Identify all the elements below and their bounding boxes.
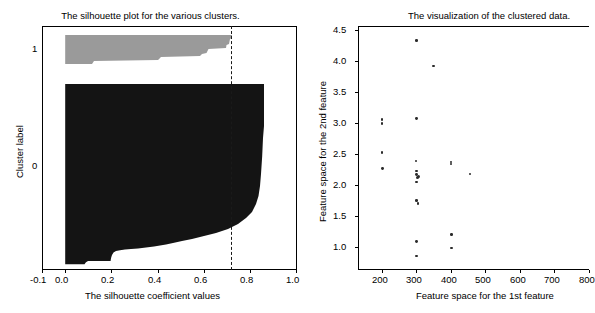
silhouette-cluster-0 <box>42 26 297 270</box>
ytick-mark <box>355 154 358 155</box>
xtick-mark <box>111 270 112 273</box>
scatter-point <box>432 65 434 67</box>
xtick-mark <box>382 270 383 273</box>
xtick-mark <box>416 270 417 273</box>
scatter-point <box>450 247 452 249</box>
scatter-point <box>381 167 384 170</box>
silhouette-plot-panel: The silhouette plot for the various clus… <box>0 0 300 313</box>
scatter-yaxis-label: Feature space for the 2nd feature <box>317 81 328 222</box>
ytick-label: 1.0 <box>333 241 346 252</box>
xtick-mark <box>520 270 521 273</box>
ytick-mark <box>355 185 358 186</box>
ytick-label: 4.5 <box>333 24 346 35</box>
cluster-visualization-panel: The visualization of the clustered data. <box>300 0 589 313</box>
xtick-mark <box>485 270 486 273</box>
silhouette-xaxis-label: The silhouette coefficient values <box>85 290 220 301</box>
average-silhouette-line <box>231 26 232 270</box>
scatter-point <box>415 39 418 42</box>
scatter-point <box>415 170 418 173</box>
scatter-point <box>381 118 384 121</box>
xtick-label: 800 <box>579 274 595 285</box>
xtick-mark <box>42 270 43 273</box>
scatter-axes-frame <box>358 26 589 270</box>
xtick-mark <box>554 270 555 273</box>
ytick-label: 1.5 <box>333 210 346 221</box>
xtick-label: 500 <box>475 274 491 285</box>
ytick-label: 0 <box>32 160 37 171</box>
xtick-mark <box>250 270 251 273</box>
cluster-visualization-title: The visualization of the clustered data. <box>384 10 594 21</box>
ytick-label: 2.0 <box>333 179 346 190</box>
xtick-label: 1.0 <box>286 274 299 285</box>
axis-spine-left <box>358 26 359 270</box>
scatter-point <box>415 117 418 120</box>
ytick-label: 1 <box>32 43 37 54</box>
xtick-mark <box>158 270 159 273</box>
ytick-mark <box>355 92 358 93</box>
ytick-label: 3.0 <box>333 117 346 128</box>
xtick-label: -0.1 <box>30 274 46 285</box>
xtick-label: 400 <box>441 274 457 285</box>
xtick-label: 0.4 <box>148 274 161 285</box>
xtick-mark <box>65 270 66 273</box>
xtick-label: 600 <box>510 274 526 285</box>
scatter-point <box>415 255 418 258</box>
xtick-label: 0.2 <box>101 274 114 285</box>
silhouette-axes-frame <box>42 26 297 270</box>
xtick-label: 300 <box>406 274 422 285</box>
scatter-xaxis-label: Feature space for the 1st feature <box>416 290 554 301</box>
xtick-label: 200 <box>372 274 388 285</box>
axis-spine-top <box>358 26 589 27</box>
scatter-point <box>415 160 417 162</box>
xtick-mark <box>451 270 452 273</box>
xtick-label: 700 <box>544 274 560 285</box>
ytick-mark <box>355 30 358 31</box>
scatter-point <box>381 122 384 125</box>
ytick-mark <box>355 61 358 62</box>
ytick-label: 2.5 <box>333 148 346 159</box>
ytick-label: 4.0 <box>333 55 346 66</box>
ytick-label: 3.5 <box>333 86 346 97</box>
xtick-label: 0.6 <box>194 274 207 285</box>
silhouette-yaxis-label: Cluster label <box>14 125 25 178</box>
ytick-mark <box>355 216 358 217</box>
scatter-point <box>415 240 418 243</box>
ytick-mark <box>355 247 358 248</box>
scatter-point <box>450 163 452 165</box>
xtick-mark <box>204 270 205 273</box>
scatter-point <box>450 233 452 235</box>
ytick-mark <box>355 123 358 124</box>
xtick-mark <box>296 270 297 273</box>
scatter-point <box>381 151 384 154</box>
scatter-point <box>417 202 419 204</box>
silhouette-plot-title: The silhouette plot for the various clus… <box>42 10 259 21</box>
xtick-label: 0.0 <box>55 274 68 285</box>
xtick-mark <box>589 270 590 273</box>
scatter-point <box>415 181 418 184</box>
scatter-point <box>416 176 419 179</box>
scatter-point <box>469 173 472 176</box>
xtick-label: 0.8 <box>240 274 253 285</box>
